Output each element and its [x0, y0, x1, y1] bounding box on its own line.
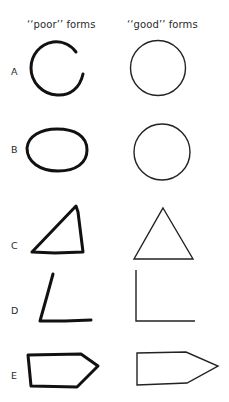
- good-circle-shape: [134, 124, 190, 180]
- good-arrow-pentagon-shape: [137, 352, 218, 385]
- poor-angle-shape: [40, 274, 91, 321]
- good-circle-shape: [131, 41, 186, 96]
- row-c: [32, 206, 193, 259]
- good-triangle-shape: [134, 208, 193, 259]
- good-angle-shape: [136, 270, 195, 321]
- poor-open-circle-shape: [31, 42, 83, 95]
- row-b: [27, 124, 190, 180]
- row-a: [31, 41, 186, 96]
- row-e: [28, 352, 218, 387]
- poor-arrow-pentagon-shape: [28, 354, 98, 387]
- poor-ellipse-shape: [27, 129, 87, 171]
- row-d: [40, 270, 195, 321]
- forms-diagram: [0, 0, 229, 402]
- poor-triangle-shape: [32, 206, 83, 253]
